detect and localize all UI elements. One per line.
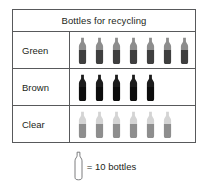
bottle-icon [142, 36, 159, 64]
bottle-icon [176, 36, 193, 64]
bottle-glyph [76, 111, 89, 138]
bottle-icon [125, 110, 142, 138]
bottle-glyph [161, 37, 174, 64]
bottle-glyph [93, 111, 106, 138]
bottle-icon [108, 110, 125, 138]
row-label-clear: Clear [22, 119, 45, 130]
page-title: Bottles for recycling [62, 15, 147, 26]
row-label-brown: Brown [22, 82, 49, 93]
bottle-glyph [161, 111, 174, 138]
bottle-icon [125, 73, 142, 101]
bottle-icon [74, 36, 91, 64]
pictograph-chart: Bottles for recycling Green Brown Clear … [0, 0, 208, 187]
bottle-icon [159, 36, 176, 64]
row-label-green: Green [22, 45, 48, 56]
row-icons-brown [70, 69, 195, 105]
bottle-icon [108, 73, 125, 101]
bottle-glyph [144, 111, 157, 138]
row-icons-green [70, 32, 195, 68]
chart-legend: = 10 bottles [12, 147, 196, 185]
bottle-glyph [76, 37, 89, 64]
bottle-glyph [127, 111, 140, 138]
table-row: Brown [13, 69, 195, 106]
bottle-glyph [127, 74, 140, 101]
bottle-glyph [178, 37, 191, 64]
bottle-glyph [110, 74, 123, 101]
bottle-icon [74, 73, 91, 101]
bottle-outline-icon [72, 151, 85, 181]
row-icons-clear [70, 106, 195, 142]
bottle-glyph [93, 37, 106, 64]
row-label-cell-clear: Clear [13, 106, 70, 142]
bottle-glyph [76, 74, 89, 101]
row-label-cell-brown: Brown [13, 69, 70, 105]
bottle-icon [91, 36, 108, 64]
pictograph-table: Bottles for recycling Green Brown Clear [12, 9, 196, 143]
bottle-icon [91, 110, 108, 138]
bottle-icon [142, 110, 159, 138]
bottle-icon [108, 36, 125, 64]
bottle-glyph [110, 37, 123, 64]
row-label-cell-green: Green [13, 32, 70, 68]
bottle-icon [74, 110, 91, 138]
bottle-glyph [144, 37, 157, 64]
bottle-icon [125, 36, 142, 64]
legend-label: = 10 bottles [87, 161, 136, 172]
chart-title-row: Bottles for recycling [13, 10, 195, 32]
table-row: Green [13, 32, 195, 69]
bottle-glyph [127, 37, 140, 64]
bottle-glyph [110, 111, 123, 138]
bottle-glyph [93, 74, 106, 101]
bottle-icon [91, 73, 108, 101]
bottle-glyph [144, 74, 157, 101]
table-row: Clear [13, 106, 195, 142]
bottle-icon [159, 110, 176, 138]
bottle-icon [142, 73, 159, 101]
